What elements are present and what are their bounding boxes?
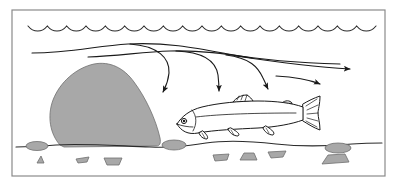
stream-flow-figure bbox=[0, 0, 397, 186]
figure-canvas bbox=[0, 0, 397, 186]
pebble-flake-3 bbox=[268, 151, 286, 158]
pebble-oval-mid bbox=[162, 140, 186, 150]
pebble-oval-left bbox=[26, 142, 48, 151]
fish-pupil bbox=[183, 120, 185, 122]
pebble-flake-2 bbox=[213, 154, 229, 161]
pebble-trapezoid-1 bbox=[104, 158, 122, 165]
pebble-oval-right bbox=[325, 143, 351, 153]
